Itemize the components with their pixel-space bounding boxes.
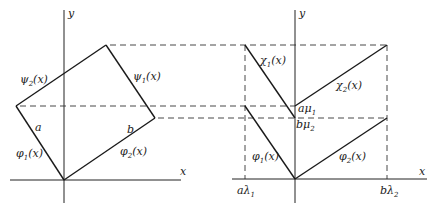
label-a: a [35,121,42,134]
label-chi2: χ2(x) [335,79,362,94]
left-panel: x y ψ2(x) ψ1(x) φ1(x) φ2(x) a b [10,7,187,203]
label-chi1: χ1(x) [259,54,286,69]
label-phi1-right: φ1(x) [252,150,279,165]
label-b-mu2: bμ2 [296,118,315,133]
label-psi1: ψ1(x) [133,70,161,85]
label-a-lambda1: aλ1 [237,184,255,199]
label-psi2: ψ2(x) [20,73,48,88]
left-edge-phi1 [16,106,64,180]
left-edge-psi2 [16,45,106,106]
right-x-label: x [419,165,426,178]
label-b-lambda2: bλ2 [380,184,399,199]
label-phi2-right: φ2(x) [339,150,366,165]
label-phi2-left: φ2(x) [120,145,147,160]
right-panel: x y χ1(x) χ2(x) φ1(x) φ2(x) aμ1 bμ2 aλ1 … [232,7,427,203]
right-edge-chi2 [295,45,387,106]
right-edge-chi1 [245,45,295,118]
left-x-label: x [180,165,187,178]
figure: x y ψ2(x) ψ1(x) φ1(x) φ2(x) a b x y χ1(x… [0,0,437,211]
dashed-guides [20,45,387,179]
left-y-label: y [67,7,75,20]
right-edge-phi1 [245,106,295,179]
label-phi1-left: φ1(x) [16,147,43,162]
right-y-label: y [298,7,306,20]
label-a-mu1: aμ1 [298,102,316,117]
label-b: b [127,123,134,136]
